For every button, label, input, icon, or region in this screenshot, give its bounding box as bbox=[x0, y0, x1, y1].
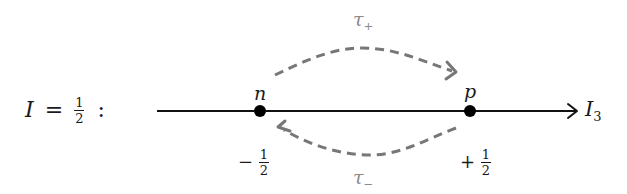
isospin-fraction: 1 2 bbox=[74, 96, 84, 125]
isospin-equation: I = 1 2 : bbox=[25, 96, 105, 125]
neutron-node bbox=[254, 105, 266, 117]
tau-symbol: τ bbox=[353, 166, 364, 188]
neutron-value-fraction: 1 2 bbox=[259, 148, 269, 177]
fraction-denominator: 2 bbox=[75, 111, 83, 125]
proton-node bbox=[464, 105, 476, 117]
fraction-numerator: 1 bbox=[259, 148, 269, 163]
i3-axis-label: I3 bbox=[585, 99, 602, 123]
proton-value-sign: + bbox=[460, 151, 475, 172]
equals-sign: = bbox=[45, 97, 63, 122]
tau-plus-curve bbox=[275, 48, 452, 75]
proton-value-fraction: 1 2 bbox=[481, 148, 491, 177]
neutron-value-sign: − bbox=[238, 151, 253, 172]
fraction-denominator: 2 bbox=[260, 163, 268, 177]
proton-label: p bbox=[464, 82, 476, 101]
fraction-numerator: 1 bbox=[481, 148, 491, 163]
neutron-label: n bbox=[254, 84, 266, 103]
tau-plus-label: τ+ bbox=[353, 10, 373, 33]
tau-minus-sub: − bbox=[364, 177, 374, 191]
tau-minus-arrowhead-icon bbox=[278, 121, 290, 131]
fraction-denominator: 2 bbox=[482, 163, 490, 177]
tau-plus-sub: + bbox=[364, 19, 374, 33]
tau-symbol: τ bbox=[353, 8, 364, 30]
proton-i3-value: + 1 2 bbox=[460, 148, 491, 177]
isospin-diagram: I = 1 2 : n p I3 − 1 2 + 1 2 τ+ τ− bbox=[0, 0, 627, 194]
neutron-i3-value: − 1 2 bbox=[238, 148, 269, 177]
axis-label-sub: 3 bbox=[593, 109, 601, 124]
colon: : bbox=[97, 97, 104, 122]
tau-minus-label: τ− bbox=[353, 168, 373, 191]
isospin-symbol: I bbox=[25, 97, 34, 122]
tau-minus-curve bbox=[284, 128, 456, 155]
fraction-numerator: 1 bbox=[74, 96, 84, 111]
